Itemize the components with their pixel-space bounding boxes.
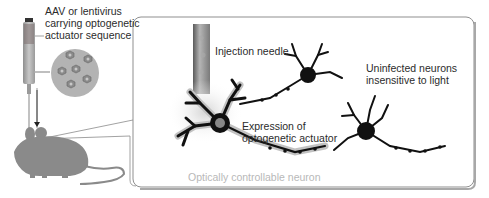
- virus-particles-icon: [51, 49, 99, 97]
- vector-label-line1: AAV or lentivirus: [45, 5, 122, 17]
- vector-label-line3: actuator sequence: [45, 29, 131, 41]
- controllable-neuron-label: Optically controllable neuron: [188, 171, 321, 183]
- mouse-icon: [14, 127, 124, 184]
- arrow-icon: [34, 90, 40, 127]
- vector-label-line2: carrying optogenetic: [45, 17, 140, 29]
- uninfected-label-line1: Uninfected neurons: [366, 62, 457, 74]
- expression-label-line1: Expression of: [242, 120, 306, 132]
- needle-label: Injection needle: [215, 45, 289, 57]
- expression-label-line2: optogenetic actuator: [242, 132, 337, 144]
- infected-soma: [210, 113, 230, 133]
- uninfected-label-line2: insensitive to light: [366, 74, 449, 86]
